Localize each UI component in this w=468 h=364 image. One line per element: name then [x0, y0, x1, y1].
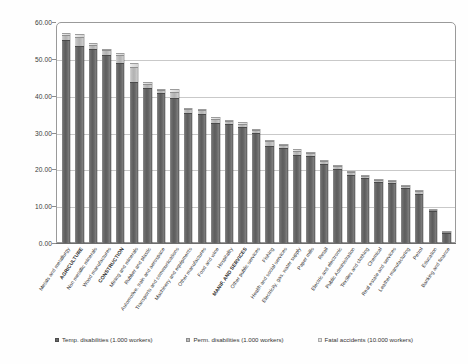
bar-column[interactable]	[263, 22, 277, 243]
bar-segment-temp-disabilities[interactable]	[143, 88, 151, 243]
bar-segment-temp-disabilities[interactable]	[89, 49, 97, 243]
stacked-bar[interactable]	[89, 43, 97, 243]
stacked-bar[interactable]	[347, 171, 355, 243]
bar-segment-temp-disabilities[interactable]	[347, 175, 355, 243]
bar-column[interactable]	[358, 22, 372, 243]
stacked-bar[interactable]	[102, 49, 110, 243]
x-axis-tick-label: Petrol	[412, 246, 425, 261]
stacked-bar[interactable]	[116, 53, 124, 243]
bar-column[interactable]	[344, 22, 358, 243]
stacked-bar[interactable]	[157, 89, 165, 243]
bar-column[interactable]	[440, 22, 454, 243]
stacked-bar[interactable]	[211, 117, 219, 243]
stacked-bar[interactable]	[293, 149, 301, 243]
bar-segment-temp-disabilities[interactable]	[442, 233, 450, 243]
bar-segment-temp-disabilities[interactable]	[130, 82, 138, 243]
bar-segment-temp-disabilities[interactable]	[184, 113, 192, 243]
bar-column[interactable]	[181, 22, 195, 243]
bar-column[interactable]	[127, 22, 141, 243]
bar-column[interactable]	[304, 22, 318, 243]
bar-column[interactable]	[331, 22, 345, 243]
bar-column[interactable]	[141, 22, 155, 243]
stacked-bar[interactable]	[198, 109, 206, 243]
bar-segment-perm-disabilities[interactable]	[130, 67, 138, 82]
bar-column[interactable]	[222, 22, 236, 243]
bar-segment-temp-disabilities[interactable]	[170, 98, 178, 243]
stacked-bar[interactable]	[442, 231, 450, 243]
stacked-bar[interactable]	[265, 140, 273, 243]
bar-segment-temp-disabilities[interactable]	[157, 93, 165, 243]
legend-item-label: Temp. disabilities (1.000 workers)	[62, 336, 152, 343]
bar-segment-temp-disabilities[interactable]	[361, 178, 369, 243]
bar-column[interactable]	[277, 22, 291, 243]
bar-segment-temp-disabilities[interactable]	[252, 133, 260, 243]
stacked-bar[interactable]	[62, 33, 70, 243]
stacked-bar[interactable]	[374, 179, 382, 243]
x-axis-line	[56, 243, 456, 244]
bar-segment-temp-disabilities[interactable]	[238, 127, 246, 243]
bar-segment-temp-disabilities[interactable]	[320, 164, 328, 243]
bar-column[interactable]	[290, 22, 304, 243]
bar-segment-temp-disabilities[interactable]	[75, 46, 83, 243]
bar-segment-temp-disabilities[interactable]	[265, 146, 273, 243]
stacked-bar[interactable]	[429, 209, 437, 243]
stacked-bar[interactable]	[238, 122, 246, 243]
stacked-bar[interactable]	[130, 63, 138, 243]
bar-column[interactable]	[412, 22, 426, 243]
bar-segment-temp-disabilities[interactable]	[211, 123, 219, 243]
stacked-bar[interactable]	[252, 129, 260, 243]
y-axis: 0.0010.0020.0030.0040.0050.0060.00	[0, 22, 52, 243]
bar-column[interactable]	[195, 22, 209, 243]
chart-legend: Temp. disabilities (1.000 workers)Perm. …	[0, 336, 468, 343]
bar-segment-temp-disabilities[interactable]	[415, 194, 423, 243]
stacked-bar[interactable]	[388, 180, 396, 243]
stacked-bar[interactable]	[279, 144, 287, 243]
bar-segment-temp-disabilities[interactable]	[293, 155, 301, 243]
y-axis-tick-label: 40.00	[6, 92, 52, 99]
bar-column[interactable]	[426, 22, 440, 243]
bar-segment-temp-disabilities[interactable]	[279, 148, 287, 243]
bar-column[interactable]	[372, 22, 386, 243]
stacked-bar[interactable]	[333, 165, 341, 243]
bar-segment-temp-disabilities[interactable]	[429, 211, 437, 243]
bar-column[interactable]	[59, 22, 73, 243]
bar-column[interactable]	[113, 22, 127, 243]
bar-segment-temp-disabilities[interactable]	[333, 169, 341, 243]
legend-item[interactable]: Fatal accidents (10.000 workers)	[318, 336, 413, 343]
x-axis-tick-label: Retail	[317, 246, 329, 260]
bar-segment-temp-disabilities[interactable]	[374, 182, 382, 243]
bar-segment-temp-disabilities[interactable]	[198, 114, 206, 243]
stacked-bar[interactable]	[361, 175, 369, 243]
stacked-bar[interactable]	[306, 152, 314, 243]
legend-item[interactable]: Perm. disabilities (1.000 workers)	[186, 336, 283, 343]
bar-segment-temp-disabilities[interactable]	[306, 156, 314, 243]
bar-segment-temp-disabilities[interactable]	[116, 63, 124, 243]
stacked-bar[interactable]	[415, 190, 423, 243]
bar-column[interactable]	[154, 22, 168, 243]
bar-column[interactable]	[209, 22, 223, 243]
stacked-bar[interactable]	[225, 120, 233, 243]
bar-column[interactable]	[385, 22, 399, 243]
stacked-bar[interactable]	[184, 108, 192, 243]
bar-segment-temp-disabilities[interactable]	[102, 55, 110, 243]
bar-column[interactable]	[86, 22, 100, 243]
stacked-bar[interactable]	[320, 160, 328, 243]
stacked-bar[interactable]	[75, 34, 83, 243]
stacked-bar[interactable]	[401, 185, 409, 243]
bar-column[interactable]	[399, 22, 413, 243]
bar-column[interactable]	[100, 22, 114, 243]
bar-segment-temp-disabilities[interactable]	[401, 188, 409, 243]
legend-item[interactable]: Temp. disabilities (1.000 workers)	[55, 336, 152, 343]
stacked-bar[interactable]	[143, 82, 151, 243]
bar-column[interactable]	[236, 22, 250, 243]
stacked-bar[interactable]	[170, 89, 178, 243]
bar-segment-temp-disabilities[interactable]	[388, 183, 396, 243]
bar-segment-temp-disabilities[interactable]	[225, 124, 233, 243]
bar-segment-perm-disabilities[interactable]	[116, 55, 124, 63]
bar-column[interactable]	[317, 22, 331, 243]
bar-column[interactable]	[249, 22, 263, 243]
bar-column[interactable]	[73, 22, 87, 243]
bar-segment-perm-disabilities[interactable]	[75, 37, 83, 45]
bar-column[interactable]	[168, 22, 182, 243]
bar-segment-temp-disabilities[interactable]	[62, 40, 70, 243]
